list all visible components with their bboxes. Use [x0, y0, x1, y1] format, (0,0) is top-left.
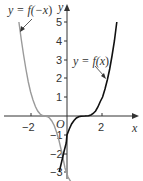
x-tick-label: 2 — [98, 121, 104, 133]
y-axis-label: y — [57, 0, 64, 14]
y-axis-arrow-icon — [64, 4, 70, 11]
origin-label: O — [56, 117, 65, 131]
y-tick-label: 2 — [56, 72, 62, 84]
label-f-neg-x: y = f(−x) — [7, 3, 52, 17]
x-axis-arrow-icon — [132, 113, 139, 119]
curve-f-neg-x-line — [19, 22, 75, 181]
annotation-arrow-f-neg-x — [22, 19, 32, 29]
curve-f-x-line — [59, 22, 117, 172]
graph-canvas: −2 2 5 4 3 2 1 −1 −2 −3 y x O y = f(−x) … — [0, 0, 143, 181]
label-f-x: y = f(x) — [72, 54, 109, 68]
x-axis-label: x — [131, 121, 138, 135]
y-tick-label: 4 — [56, 35, 62, 47]
x-tick-label: −2 — [22, 121, 35, 133]
y-tick-label: 5 — [56, 16, 62, 28]
y-tick-label: 1 — [56, 91, 62, 103]
y-tick-label: 3 — [56, 54, 62, 66]
